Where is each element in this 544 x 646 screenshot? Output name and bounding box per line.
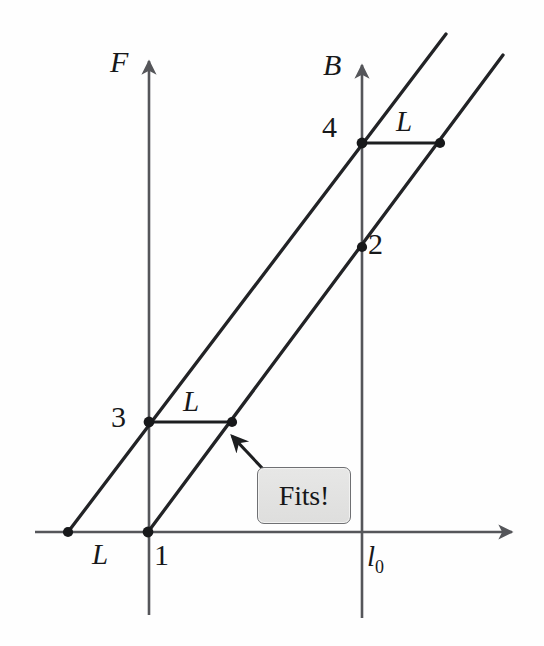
figure-canvas: F B 4 2 3 1 L L L l0 Fits! bbox=[0, 0, 544, 646]
fits-callout-label: Fits! bbox=[279, 480, 329, 512]
b-axis-label: B bbox=[323, 50, 341, 80]
diagram-svg bbox=[0, 0, 544, 646]
tick-l0-base: l bbox=[367, 540, 375, 572]
line-through-L-3-4 bbox=[68, 34, 446, 532]
point-L-upper-end-dot bbox=[435, 138, 445, 148]
point-2-label: 2 bbox=[368, 229, 383, 259]
point-4-label: 4 bbox=[322, 112, 337, 142]
segment-L-lower-label: L bbox=[183, 387, 199, 416]
tick-l0-label: l0 bbox=[367, 542, 384, 576]
point-L-lower-end-dot bbox=[227, 417, 237, 427]
point-3-label: 3 bbox=[111, 402, 126, 432]
fits-callout-arrow bbox=[233, 437, 264, 470]
tick-l0-subscript: 0 bbox=[375, 557, 384, 577]
point-L-origin-label: L bbox=[92, 540, 108, 569]
point-4-dot bbox=[357, 138, 368, 149]
f-axis-label: F bbox=[110, 47, 128, 77]
segment-L-upper-label: L bbox=[396, 107, 412, 136]
point-2-dot bbox=[357, 242, 367, 252]
point-L-origin-dot bbox=[63, 527, 73, 537]
fits-callout-box[interactable]: Fits! bbox=[257, 467, 351, 524]
point-1-label: 1 bbox=[154, 540, 169, 570]
point-3-dot bbox=[144, 417, 155, 428]
point-1-dot bbox=[143, 527, 154, 538]
